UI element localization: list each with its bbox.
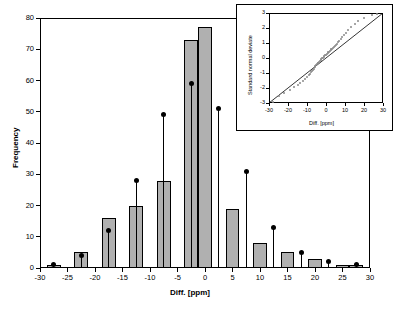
- y-tick-mark: [36, 236, 40, 237]
- x-tick-label: 15: [274, 273, 302, 282]
- qq-point: [354, 23, 356, 25]
- x-tick-mark: [287, 268, 288, 272]
- inset-x-tick-mark: [288, 103, 289, 106]
- y-tick-mark: [36, 80, 40, 81]
- y-tick-mark: [36, 18, 40, 19]
- y-tick-label: 30: [8, 169, 34, 178]
- inset-y-tick-mark: [266, 73, 269, 74]
- qq-point: [371, 14, 373, 16]
- y-tick-label: 0: [8, 263, 34, 272]
- inset-y-axis-title: Standard normal deviate: [247, 35, 253, 95]
- y-tick-label: 50: [8, 107, 34, 116]
- y-tick-label: 80: [8, 13, 34, 22]
- inset-y-tick-label: 2: [247, 24, 265, 30]
- inset-x-tick-mark: [364, 103, 365, 106]
- x-tick-label: 0: [191, 273, 219, 282]
- x-tick-mark: [260, 268, 261, 272]
- qq-point: [302, 80, 304, 82]
- x-tick-label: -10: [136, 273, 164, 282]
- inset-y-tick-mark: [266, 13, 269, 14]
- inset-y-tick-mark: [266, 88, 269, 89]
- overlay-point: [189, 81, 194, 86]
- x-tick-mark: [150, 268, 151, 272]
- qq-point: [283, 92, 285, 94]
- overlay-point: [299, 250, 304, 255]
- histogram-bar: [281, 252, 295, 268]
- qq-point: [309, 73, 311, 75]
- x-tick-mark: [370, 268, 371, 272]
- inset-y-tick-mark: [266, 28, 269, 29]
- x-tick-mark: [342, 268, 343, 272]
- overlay-stem: [163, 115, 164, 268]
- inset-x-axis-title: Diff. [ppm]: [309, 120, 334, 126]
- figure-root: -30-25-20-15-10-5051015202530 0102030405…: [0, 0, 397, 310]
- overlay-stem: [218, 109, 219, 268]
- overlay-point: [134, 178, 139, 183]
- qq-point: [345, 32, 347, 34]
- inset-x-tick-mark: [307, 103, 308, 106]
- overlay-stem: [136, 181, 137, 269]
- y-tick-label: 70: [8, 44, 34, 53]
- inset-y-tick-label: 3: [247, 9, 265, 15]
- inset-x-tick-label: 30: [372, 107, 394, 113]
- y-tick-mark: [36, 143, 40, 144]
- inset-y-tick-mark: [266, 58, 269, 59]
- y-tick-mark: [36, 49, 40, 50]
- y-tick-label: 10: [8, 232, 34, 241]
- inset-x-tick-mark: [383, 103, 384, 106]
- histogram-bar: [198, 27, 212, 268]
- x-tick-mark: [122, 268, 123, 272]
- x-tick-label: 10: [246, 273, 274, 282]
- x-tick-label: -5: [164, 273, 192, 282]
- y-tick-label: 20: [8, 201, 34, 210]
- overlay-stem: [191, 84, 192, 268]
- x-tick-mark: [67, 268, 68, 272]
- overlay-stem: [273, 227, 274, 268]
- y-axis-title: Frequency: [11, 128, 20, 168]
- qq-point: [343, 34, 345, 36]
- x-tick-mark: [205, 268, 206, 272]
- qq-point: [297, 84, 299, 86]
- histogram-bar: [226, 209, 240, 268]
- x-axis-title: Diff. [ppm]: [170, 288, 210, 297]
- x-tick-label: -15: [109, 273, 137, 282]
- overlay-stem: [246, 171, 247, 268]
- qq-point: [289, 89, 291, 91]
- x-tick-label: -30: [26, 273, 54, 282]
- qq-point: [304, 78, 306, 80]
- qq-point: [340, 38, 342, 40]
- inset-y-tick-mark: [266, 43, 269, 44]
- x-tick-mark: [315, 268, 316, 272]
- x-tick-label: -20: [81, 273, 109, 282]
- inset-y-tick-mark: [266, 103, 269, 104]
- x-tick-label: 5: [219, 273, 247, 282]
- overlay-stem: [108, 231, 109, 269]
- qq-point: [306, 76, 308, 78]
- y-tick-mark: [36, 111, 40, 112]
- y-tick-mark: [36, 205, 40, 206]
- inset-y-tick-label: -3: [247, 99, 265, 105]
- histogram-bar: [253, 243, 267, 268]
- x-tick-mark: [95, 268, 96, 272]
- y-tick-label: 60: [8, 76, 34, 85]
- x-tick-mark: [40, 268, 41, 272]
- histogram-bar: [308, 259, 322, 268]
- y-tick-mark: [36, 174, 40, 175]
- x-tick-label: 25: [329, 273, 357, 282]
- x-tick-mark: [232, 268, 233, 272]
- x-tick-label: 20: [301, 273, 329, 282]
- x-tick-mark: [177, 268, 178, 272]
- inset-qq-plot: -30-20-100102030 -3-2-10123 Diff. [ppm] …: [236, 4, 393, 131]
- x-tick-label: -25: [54, 273, 82, 282]
- qq-point: [278, 95, 280, 97]
- qq-reference-line: [269, 13, 383, 103]
- x-tick-label: 30: [356, 273, 384, 282]
- y-tick-mark: [36, 268, 40, 269]
- inset-x-tick-mark: [326, 103, 327, 106]
- qq-point: [272, 101, 274, 103]
- inset-x-tick-mark: [345, 103, 346, 106]
- overlay-point: [244, 169, 249, 174]
- overlay-point: [79, 253, 84, 258]
